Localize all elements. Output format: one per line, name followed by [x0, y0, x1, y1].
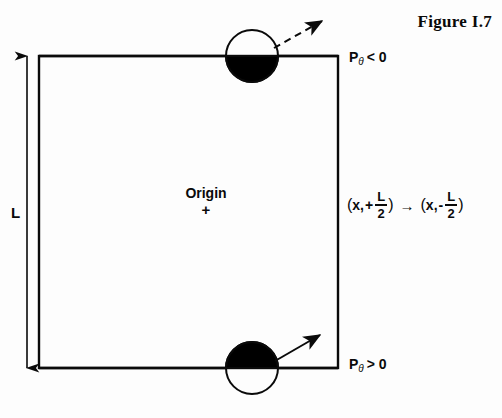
- top-momentum-arrow: [274, 21, 322, 48]
- p-theta-top-subscript: θ: [358, 56, 363, 67]
- p-theta-bottom-relation: > 0: [367, 356, 387, 372]
- figure-page: Figure I.7: [0, 0, 502, 418]
- mapping-left-denominator: 2: [377, 206, 386, 220]
- mapping-arrow-icon: →: [400, 198, 415, 213]
- top-particle-filled-half: [226, 56, 278, 82]
- p-theta-positive-label: Pθ> 0: [349, 356, 387, 374]
- p-theta-top-relation: < 0: [367, 49, 387, 65]
- mapping-left-sign: +: [365, 198, 373, 212]
- p-theta-bottom-symbol: P: [349, 356, 358, 372]
- origin-marker: Origin +: [166, 186, 246, 217]
- boundary-mapping-formula: ( x, + L 2 ) → ( x, - L 2 ): [347, 190, 464, 220]
- mapping-right-close-paren: ): [458, 197, 463, 213]
- mapping-left-fraction: L 2: [375, 190, 387, 220]
- mapping-left-close-paren: ): [388, 197, 393, 213]
- mapping-right-denominator: 2: [447, 206, 456, 220]
- mapping-right-fraction: L 2: [445, 190, 457, 220]
- p-theta-bottom-subscript: θ: [358, 363, 363, 374]
- p-theta-top-symbol: P: [349, 49, 358, 65]
- bottom-particle: [226, 342, 278, 394]
- top-particle: [226, 30, 278, 82]
- mapping-left-variable: x,: [352, 198, 364, 212]
- dimension-label-L: L: [11, 204, 20, 221]
- p-theta-negative-label: Pθ< 0: [349, 49, 387, 67]
- bottom-momentum-arrow: [275, 335, 320, 361]
- mapping-right-variable: x,: [426, 198, 438, 212]
- mapping-right-numerator: L: [446, 190, 456, 204]
- mapping-right-sign: -: [439, 198, 444, 212]
- origin-label: Origin: [166, 186, 246, 201]
- origin-cross-icon: +: [166, 202, 246, 217]
- mapping-left-numerator: L: [376, 190, 386, 204]
- bottom-particle-filled-half: [226, 342, 278, 368]
